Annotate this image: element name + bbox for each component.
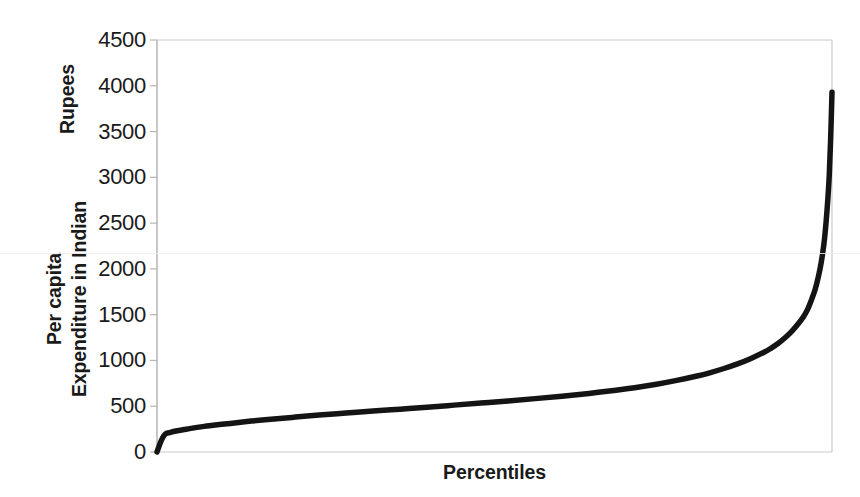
data-series-line <box>157 92 832 452</box>
x-axis-label: Percentiles <box>157 461 832 484</box>
scan-artifact-line <box>0 253 860 254</box>
chart-figure: Per capita Expenditure in Indian Rupees … <box>0 0 860 497</box>
plot-area <box>0 0 860 497</box>
plot-frame <box>157 40 832 452</box>
y-axis-ticks <box>150 40 157 452</box>
